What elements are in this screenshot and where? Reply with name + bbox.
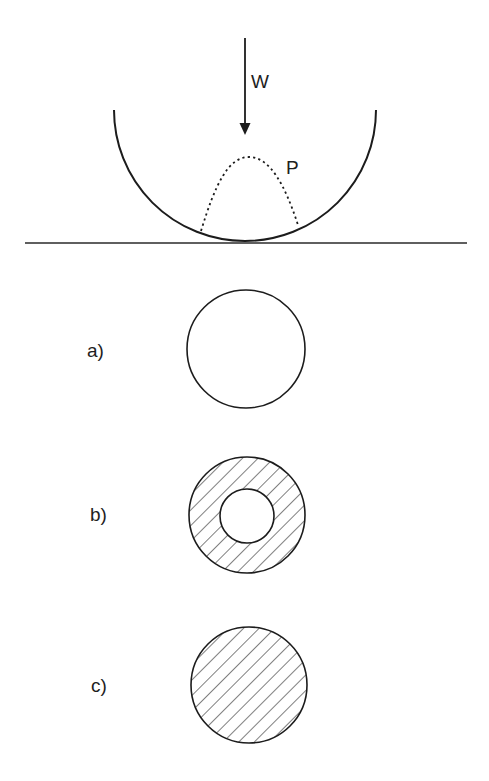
contact-figure: W P (25, 38, 467, 243)
label-c: c) (91, 675, 107, 696)
load-label: W (251, 71, 269, 92)
ring-inner-circle (220, 489, 274, 543)
contact-diagram: W P a) b) c) (0, 0, 489, 781)
arrow-head-icon (240, 123, 251, 135)
cross-section-c: c) (91, 627, 307, 743)
solid-circle-empty (187, 290, 305, 408)
pressure-distribution-curve (201, 157, 298, 231)
pressure-label: P (286, 157, 299, 178)
cross-section-a: a) (87, 290, 305, 408)
label-b: b) (90, 504, 107, 525)
cross-section-b: b) (90, 457, 305, 573)
label-a: a) (87, 340, 104, 361)
load-arrow (240, 38, 251, 135)
